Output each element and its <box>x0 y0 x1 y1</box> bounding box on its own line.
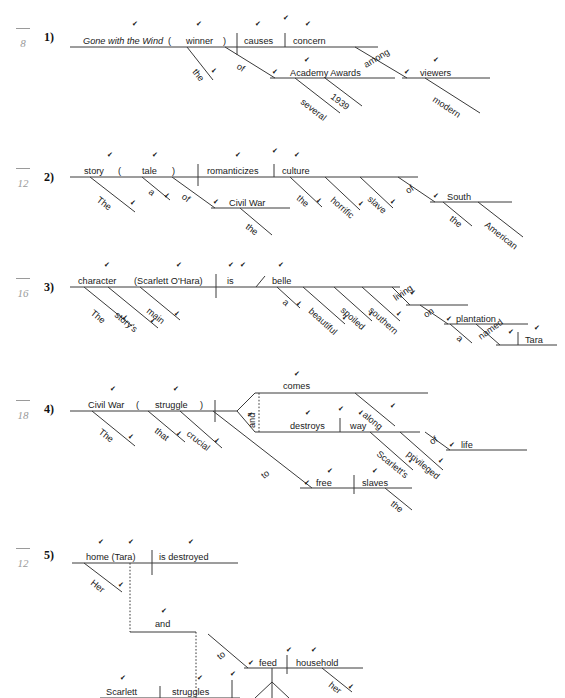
diagram-4: Civil War ✔ ( struggle ✔ ) The ✔ that ✔ … <box>0 360 565 510</box>
word-the1-2: The <box>95 195 114 213</box>
modifier-line-the-2 <box>90 177 135 212</box>
word-subject-3: character <box>78 276 116 286</box>
diagram-3: character ✔ (Scarlett O'Hara) ✔ is ✔ ✔ b… <box>0 250 565 360</box>
check-crucial-4: ✔ <box>214 437 220 445</box>
word-obj-prep2-2: South <box>447 192 471 202</box>
word-object2-4: way <box>349 421 367 431</box>
word-verb-2: romanticizes <box>207 166 259 176</box>
check-the1-2: ✔ <box>130 199 136 207</box>
check-that-4: ✔ <box>176 430 182 438</box>
word-complement-3: belle <box>272 276 291 286</box>
check-divider-1: ✔ <box>283 14 289 22</box>
check-life-pre-4: ✔ <box>449 441 455 449</box>
word-subject-4: Civil War <box>88 400 124 410</box>
word-inf-object-5: household <box>296 658 338 668</box>
word-slave-2: slave <box>366 194 389 216</box>
check-conjunction-4: ✔ <box>247 411 253 419</box>
check-tara-5: ✔ <box>128 538 134 546</box>
word-subject-1: Gone with the Wind <box>83 36 164 46</box>
check-privileged-4: ✔ <box>438 457 444 465</box>
word-privileged-4: privileged <box>405 449 442 482</box>
word-appositive-open-2: ( <box>118 166 121 176</box>
word-object-1: concern <box>293 36 326 46</box>
check-viewers-pre-1: ✔ <box>404 68 410 76</box>
check-inf-object-4: ✔ <box>372 467 378 475</box>
word-modern-1: modern <box>431 94 463 119</box>
word-of-1: of <box>235 61 247 74</box>
word-appositive-close-4: ) <box>200 400 203 410</box>
diagram-1: Gone with the Wind ✔ ( winner ✔ ) causes… <box>0 0 565 135</box>
check-academy-awards-pre-1: ✔ <box>272 68 278 76</box>
check-verb-1: ✔ <box>255 20 261 28</box>
word-inf-object-4: slaves <box>362 478 388 488</box>
check-free-pre-4: ✔ <box>304 479 310 487</box>
word-appositive-close-1: ) <box>223 36 226 46</box>
word-a2-3: a <box>455 333 466 344</box>
word-verb1-5: is destroyed <box>159 552 209 562</box>
check-infinitive-5: ✔ <box>286 646 292 654</box>
word-appositive-4: struggle <box>155 400 188 410</box>
check-verb2-5: ✔ <box>197 674 203 682</box>
word-infinitive-4: free <box>316 478 332 488</box>
check-her2-5: ✔ <box>348 683 354 691</box>
check-object-1: ✔ <box>305 20 311 28</box>
word-the2-2: the <box>244 222 260 238</box>
check-subject-4: ✔ <box>110 385 116 393</box>
diagram-5: home (Tara) ✔ ✔ is destroyed ✔ Her ✔ and… <box>0 510 565 698</box>
check-the-1: ✔ <box>211 67 217 75</box>
check-obj-prep1-1: ✔ <box>304 56 310 64</box>
word-appositive-close-2: ) <box>172 166 175 176</box>
word-the4-2: the <box>448 214 464 230</box>
check-appositive-1: ✔ <box>196 20 202 28</box>
word-obj-complement-3: Tara <box>525 335 544 345</box>
word-obj-prep1-1: Academy Awards <box>290 68 361 78</box>
word-the1-3: The <box>89 308 108 326</box>
word-horrific-2: horrific <box>329 195 357 221</box>
check-southern-3: ✔ <box>396 310 402 318</box>
word-to-4: to <box>259 468 271 481</box>
check-a1-2: ✔ <box>164 192 170 200</box>
check-feed-pre-5: ✔ <box>248 659 254 667</box>
check-main-3: ✔ <box>174 310 180 318</box>
word-beautiful-3: beautiful <box>307 306 340 337</box>
word-her2-5: her <box>327 680 344 696</box>
check-divider-4: ✔ <box>338 405 344 413</box>
word-of2-2: of <box>404 183 416 196</box>
word-scarletts-4: Scarlett's <box>375 449 411 481</box>
check-subject-1: ✔ <box>132 20 138 28</box>
check-complement-3: ✔ <box>278 261 284 269</box>
word-appositive-1: winner <box>185 36 213 46</box>
check-infinitive-4: ✔ <box>327 467 333 475</box>
check-subject-2: ✔ <box>107 151 113 159</box>
word-verb1-4: comes <box>283 381 310 391</box>
check-inf-object-5: ✔ <box>311 646 317 654</box>
prep-line-of-2 <box>172 177 215 208</box>
word-appositive-2: tale <box>142 166 157 176</box>
check-named-3: ✔ <box>508 328 514 336</box>
check-subject2-5: ✔ <box>120 674 126 682</box>
complement-divider-3 <box>256 276 265 287</box>
check-along-4: ✔ <box>390 402 396 410</box>
word-obj-prep1-4: life <box>461 440 473 450</box>
fork-upper-4 <box>237 393 410 411</box>
word-subject1-5: home (Tara) <box>86 552 136 562</box>
infinitive-stem-line-5 <box>208 634 248 668</box>
check-verb2-4: ✔ <box>305 409 311 417</box>
check-her1-5: ✔ <box>118 581 124 589</box>
word-appositive-3: (Scarlett O'Hara) <box>134 276 203 286</box>
word-appositive-open-4: ( <box>136 400 139 410</box>
word-a1-3: a <box>281 297 292 308</box>
check-subject1-5: ✔ <box>98 538 104 546</box>
word-verb-1: causes <box>244 36 274 46</box>
word-to-5: to <box>215 649 227 662</box>
diagram-2: story ✔ ( tale ✔ ) romanticizes ✔ ✔ cult… <box>0 140 565 250</box>
word-conjunction-5: and <box>155 619 170 629</box>
check-south-pre-2: ✔ <box>433 192 439 200</box>
check-subject-3: ✔ <box>104 261 110 269</box>
check-divider-2: ✔ <box>272 147 278 155</box>
word-subject2-5: Scarlett <box>106 687 138 697</box>
check-appositive-2: ✔ <box>152 151 158 159</box>
check-verb1-5: ✔ <box>188 538 194 546</box>
check-appositive-3: ✔ <box>176 261 182 269</box>
check-verb1-4: ✔ <box>294 370 300 378</box>
